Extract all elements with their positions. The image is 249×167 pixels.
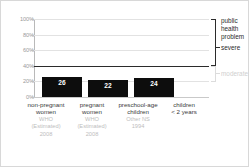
y-tick-label-0: 0% [0, 94, 34, 100]
bar-non-pregnant-women[interactable]: 26 [42, 77, 82, 97]
tick-severe [216, 47, 220, 48]
x-label-line1: children [154, 101, 214, 108]
x-label-line2: < 2 years [154, 108, 214, 115]
y-axis-line [34, 19, 35, 97]
annotation-line2: health [221, 25, 238, 32]
bracket-moderate [211, 66, 216, 82]
y-tick-label-40: 40% [0, 63, 34, 69]
annotation-severe: severe [221, 44, 240, 52]
bar-slot-pregnant-women: 22 [88, 19, 128, 97]
bar-preschool-age-children[interactable]: 24 [134, 78, 174, 97]
bar-slot-non-pregnant-women: 26 [42, 19, 82, 97]
bar-pregnant-women[interactable]: 22 [88, 80, 128, 97]
tick-moderate [216, 73, 220, 74]
bar-value-label: 26 [42, 79, 82, 86]
annotation-moderate: moderate [221, 70, 248, 78]
x-label-source3: 2008 [62, 131, 122, 138]
x-label-source2: 1994 [108, 123, 168, 130]
x-axis-line [34, 97, 209, 98]
plot-area: 26 22 24 [34, 19, 209, 97]
x-label-source1: Other NS [108, 116, 168, 123]
y-tick-label-80: 80% [0, 32, 34, 38]
bar-value-label: 24 [134, 80, 174, 87]
y-tick-label-20: 20% [0, 78, 34, 84]
bracket-public-health-problem [211, 19, 216, 66]
bar-value-label: 22 [88, 82, 128, 89]
annotation-line1: public [221, 17, 238, 24]
x-label-children-under-2: children < 2 years [154, 101, 214, 116]
bar-slot-preschool-age-children: 24 [134, 19, 174, 97]
y-tick-label-100: 100% [0, 16, 34, 22]
chart-figure: 100% 80% 60% 40% 20% 0% 26 22 [0, 0, 249, 167]
annotation-line3: problem [221, 33, 244, 40]
annotation-public-health-problem: public health problem [221, 17, 249, 42]
y-tick-label-60: 60% [0, 47, 34, 53]
